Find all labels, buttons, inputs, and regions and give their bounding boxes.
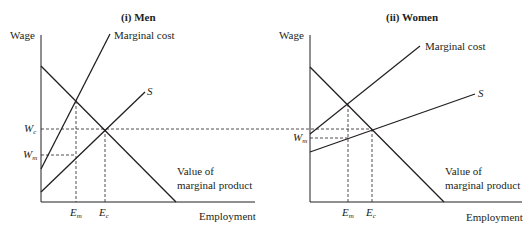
women-vmp-label-2: marginal product <box>445 180 520 191</box>
women-vmp-label-1: Value of <box>445 166 482 177</box>
men-axes <box>41 35 255 202</box>
men-wc-tick: Wc <box>24 123 36 136</box>
women-panel-title: (ii) Women <box>386 12 438 23</box>
men-x-axis-label: Employment <box>199 211 256 222</box>
women-axes <box>310 35 522 202</box>
women-vmp-line <box>310 67 444 202</box>
men-vmp-line <box>41 66 176 202</box>
men-supply-line <box>41 92 145 192</box>
men-marginal-cost-line <box>41 34 110 169</box>
men-y-axis-label: Wage <box>10 30 35 41</box>
men-vmp-label-2: marginal product <box>177 180 252 191</box>
men-em-tick: Em <box>70 207 82 220</box>
women-ec-tick: Ec <box>366 207 376 220</box>
women-x-axis-label: Employment <box>466 212 523 223</box>
women-supply-label: S <box>478 88 484 99</box>
men-ec-tick: Ec <box>99 207 109 220</box>
diagram-canvas <box>0 0 532 233</box>
women-supply-line <box>310 94 475 152</box>
men-wm-tick: Wm <box>23 149 37 162</box>
women-y-axis-label: Wage <box>279 30 304 41</box>
men-vmp-label-1: Value of <box>177 166 214 177</box>
men-supply-label: S <box>147 86 153 97</box>
women-marginal-cost-label: Marginal cost <box>425 41 486 52</box>
women-em-tick: Em <box>342 207 354 220</box>
women-marginal-cost-line <box>310 46 420 134</box>
women-wm-tick: Wm <box>293 132 307 145</box>
men-panel-title: (i) Men <box>121 12 156 23</box>
men-marginal-cost-label: Marginal cost <box>114 30 175 41</box>
